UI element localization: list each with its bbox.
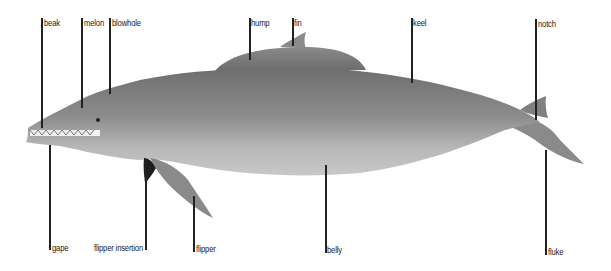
fluke-pointer (545, 150, 547, 255)
body-shape (26, 68, 540, 175)
label-belly: belly (327, 245, 342, 255)
flipper-insertion-pointer (145, 160, 147, 250)
gape-pointer (49, 145, 51, 250)
melon-pointer (81, 18, 83, 108)
label-flipper-insertion: flipper insertion (94, 243, 143, 253)
label-beak: beak (44, 18, 60, 28)
belly-pointer (325, 165, 327, 253)
label-melon: melon (84, 18, 104, 28)
eye (96, 118, 100, 122)
label-fluke: fluke (548, 247, 563, 257)
label-hump: hump (251, 18, 269, 28)
flipper-pointer (193, 196, 195, 252)
label-gape: gape (52, 243, 68, 253)
dolphin-illustration (0, 0, 611, 271)
blowhole-pointer (109, 18, 111, 94)
dolphin-diagram: beak melon blowhole hump fin keel notch … (0, 0, 611, 271)
label-keel: keel (413, 18, 426, 28)
label-blowhole: blowhole (112, 18, 141, 28)
label-fin: fin (294, 18, 302, 28)
label-flipper: flipper (196, 244, 216, 254)
beak-pointer (41, 18, 43, 128)
notch-pointer (535, 19, 537, 120)
label-notch: notch (538, 19, 556, 29)
